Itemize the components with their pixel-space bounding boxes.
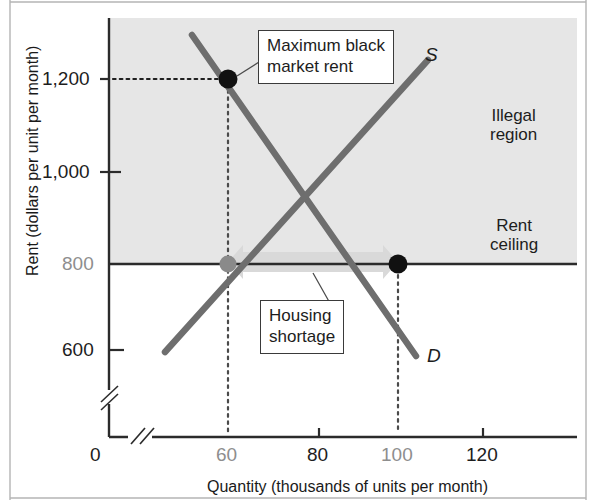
x-axis-title: Quantity (thousands of units per month)	[207, 478, 488, 496]
demand-curve-label: D	[427, 345, 441, 366]
max-black-market-rent-callout: Maximum black market rent	[258, 30, 394, 84]
origin-label: 0	[90, 444, 101, 465]
point-quantity-demanded-at-ceiling	[389, 255, 408, 274]
x-tick-label-120: 120	[466, 444, 498, 465]
housing-shortage-callout: Housing shortage	[260, 300, 344, 354]
y-tick-label-600: 600	[62, 339, 94, 360]
y-tick-label-800: 800	[62, 253, 94, 274]
y-tick-label-1200: 1,200	[42, 68, 90, 89]
point-quantity-supplied-at-ceiling	[220, 256, 237, 273]
supply-curve-label: S	[425, 44, 438, 65]
y-axis-title: Rent (dollars per unit per month)	[24, 46, 42, 276]
rent-ceiling-label: Rent ceiling	[490, 216, 538, 254]
y-tick-label-1000: 1,000	[42, 161, 90, 182]
point-max-black-market-rent	[219, 70, 238, 89]
illegal-region-label: Illegal region	[490, 106, 537, 144]
x-tick-label-80: 80	[307, 444, 328, 465]
figure-container: Rent (dollars per unit per month) 1,200 …	[0, 0, 592, 500]
x-tick-label-60: 60	[216, 444, 237, 465]
x-tick-label-100: 100	[381, 444, 413, 465]
